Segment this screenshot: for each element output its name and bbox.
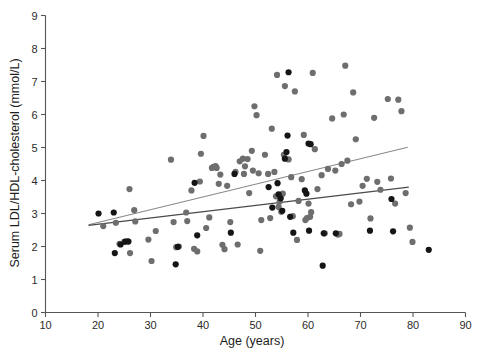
scatter-point <box>125 238 131 244</box>
y-tick-label: 5 <box>31 142 37 154</box>
scatter-point <box>253 112 259 118</box>
scatter-point <box>377 187 383 193</box>
scatter-point <box>271 169 277 175</box>
scatter-point <box>127 250 133 256</box>
scatter-point <box>333 230 339 236</box>
scatter-point <box>148 258 154 264</box>
scatter-point <box>341 111 347 117</box>
y-tick-label: 9 <box>31 10 37 22</box>
y-tick-label: 3 <box>31 208 37 220</box>
scatter-point <box>319 172 325 178</box>
scatter-point <box>288 174 294 180</box>
data-points <box>95 63 431 269</box>
scatter-point <box>426 247 432 253</box>
scatter-point <box>283 149 289 155</box>
scatter-point <box>374 179 380 185</box>
y-tick-label: 0 <box>31 307 37 319</box>
scatter-point <box>131 207 137 213</box>
scatter-point <box>192 180 198 186</box>
y-axis-title: Serum LDL/HDL-cholesterol (mmol/L) <box>8 58 22 267</box>
scatter-point <box>175 244 181 250</box>
scatter-point <box>356 199 362 205</box>
scatter-point <box>198 151 204 157</box>
scatter-point <box>342 63 348 69</box>
scatter-point <box>388 196 394 202</box>
scatter-point <box>308 141 314 147</box>
scatter-point <box>321 230 327 236</box>
scatter-point <box>320 263 326 269</box>
axis-ticks <box>41 16 466 318</box>
scatter-point <box>407 225 413 231</box>
y-tick-label: 8 <box>31 43 37 55</box>
scatter-point <box>332 168 338 174</box>
scatter-point <box>250 168 256 174</box>
scatter-point <box>249 148 255 154</box>
scatter-point <box>390 228 396 234</box>
scatter-point <box>395 97 401 103</box>
x-axis-title: Age (years) <box>220 334 285 348</box>
scatter-point <box>197 178 203 184</box>
scatter-point <box>385 96 391 102</box>
scatter-point <box>171 219 177 225</box>
scatter-point <box>364 176 370 182</box>
scatter-point <box>112 250 118 256</box>
scatter-point <box>367 215 373 221</box>
scatter-point <box>278 195 284 201</box>
x-tick-label: 90 <box>459 319 471 331</box>
scatter-point <box>310 70 316 76</box>
scatter-point <box>145 236 151 242</box>
scatter-point <box>258 217 264 223</box>
scatter-point <box>173 261 179 267</box>
scatter-point <box>194 248 200 254</box>
scatter-point <box>269 204 275 210</box>
scatter-point <box>221 246 227 252</box>
scatter-point <box>290 230 296 236</box>
scatter-point <box>303 191 309 197</box>
y-tick-label: 4 <box>31 175 37 187</box>
scatter-point <box>329 115 335 121</box>
scatter-point <box>132 218 138 224</box>
scatter-point <box>153 228 159 234</box>
scatter-point <box>371 115 377 121</box>
scatter-point <box>353 136 359 142</box>
y-tick-label: 6 <box>31 109 37 121</box>
scatter-point <box>308 209 314 215</box>
scatter-point <box>235 241 241 247</box>
scatter-point <box>100 223 106 229</box>
x-tick-label: 50 <box>249 319 261 331</box>
scatter-point <box>227 219 233 225</box>
scatter-point <box>409 239 415 245</box>
scatter-point <box>282 156 288 162</box>
scatter-point <box>274 180 280 186</box>
x-tick-label: 70 <box>354 319 366 331</box>
scatter-point <box>360 183 366 189</box>
scatter-point <box>279 208 285 214</box>
scatter-point <box>285 69 291 75</box>
scatter-point <box>257 248 263 254</box>
scatter-point <box>95 210 101 216</box>
scatter-point <box>228 230 234 236</box>
scatter-point <box>265 171 271 177</box>
scatter-point <box>282 83 288 89</box>
scatter-point <box>267 215 273 221</box>
scatter-plot-figure: 0123456789102030405060708090 Age (years)… <box>0 0 477 356</box>
scatter-point <box>214 165 220 171</box>
scatter-point <box>284 133 290 139</box>
scatter-point <box>339 161 345 167</box>
scatter-point <box>256 170 262 176</box>
x-tick-label: 30 <box>144 319 156 331</box>
scatter-point <box>305 201 311 207</box>
scatter-point <box>206 214 212 220</box>
scatter-point <box>194 232 200 238</box>
y-tick-label: 2 <box>31 241 37 253</box>
scatter-point <box>126 186 132 192</box>
scatter-point <box>200 133 206 139</box>
scatter-point <box>287 214 293 220</box>
scatter-point <box>184 218 190 224</box>
scatter-point <box>294 237 300 243</box>
scatter-point <box>269 126 275 132</box>
scatter-point <box>245 156 251 162</box>
scatter-point <box>231 171 237 177</box>
scatter-point <box>398 108 404 114</box>
scatter-point <box>388 175 394 181</box>
